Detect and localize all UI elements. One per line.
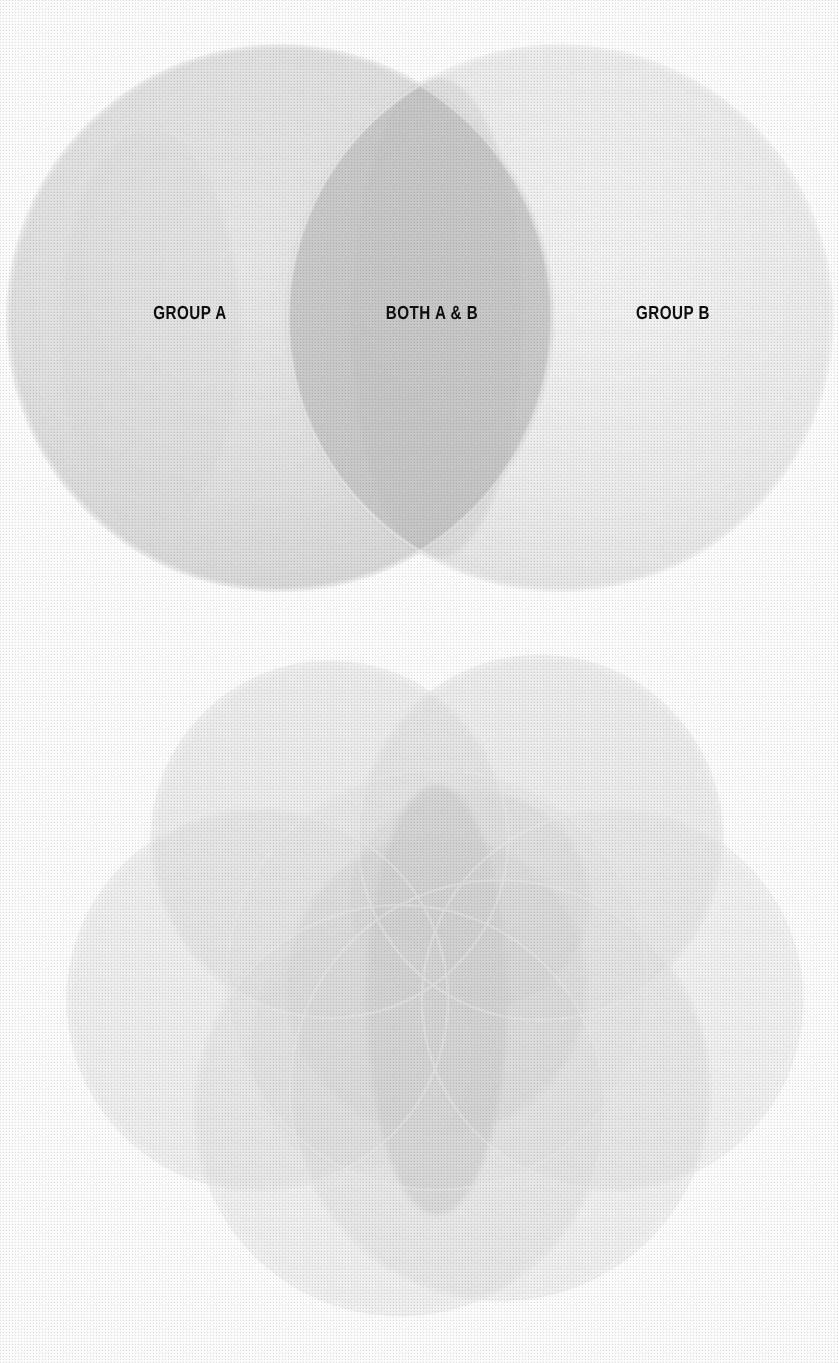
page-canvas: GROUP A BOTH A & B GROUP B: [0, 0, 838, 1363]
venn-label-group-a: GROUP A: [153, 304, 226, 323]
venn-label-both-a-and-b: BOTH A & B: [386, 304, 478, 323]
multi-set-venn-svg: [0, 640, 838, 1363]
multi-set-venn-figure: [0, 640, 838, 1363]
two-set-venn-figure: GROUP A BOTH A & B GROUP B: [0, 0, 838, 640]
venn-label-group-b: GROUP B: [636, 304, 710, 323]
